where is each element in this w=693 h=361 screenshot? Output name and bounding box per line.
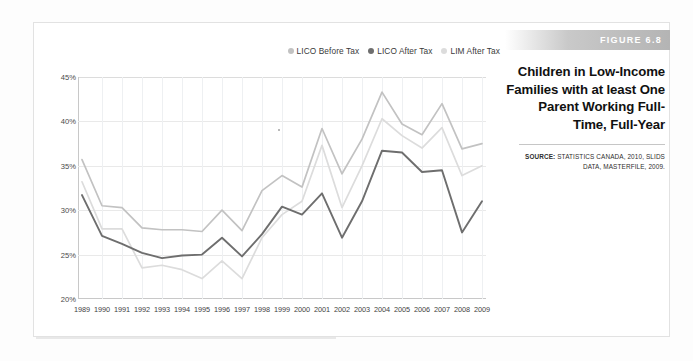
x-axis-tick-label: 2005 bbox=[394, 305, 410, 314]
legend-swatch-icon bbox=[288, 48, 294, 54]
x-axis-tick-label: 1993 bbox=[154, 305, 170, 314]
legend-label: LIM After Tax bbox=[450, 46, 500, 56]
x-axis-tick-label: 1995 bbox=[194, 305, 210, 314]
x-axis-tick-label: 1990 bbox=[94, 305, 110, 314]
y-axis-tick-label: 45% bbox=[42, 73, 76, 82]
x-axis-tick-label: 2000 bbox=[294, 305, 310, 314]
legend-item-2[interactable]: LIM After Tax bbox=[441, 46, 500, 56]
x-axis-tick-label: 1999 bbox=[274, 305, 290, 314]
series-lines bbox=[78, 77, 486, 299]
x-axis-tick-label: 2008 bbox=[454, 305, 470, 314]
x-axis-tick-label: 2001 bbox=[314, 305, 330, 314]
x-axis-tick-label: 1994 bbox=[174, 305, 190, 314]
series-line-2 bbox=[82, 119, 482, 279]
x-axis-tick-label: 1996 bbox=[214, 305, 230, 314]
chart-legend: LICO Before TaxLICO After TaxLIM After T… bbox=[230, 46, 500, 56]
x-axis-tick-label: 1992 bbox=[134, 305, 150, 314]
x-axis-tick-label: 1997 bbox=[234, 305, 250, 314]
x-axis-tick-label: 1998 bbox=[254, 305, 270, 314]
y-axis-tick-label: 25% bbox=[42, 251, 76, 260]
chart-area: LICO Before TaxLICO After TaxLIM After T… bbox=[40, 30, 502, 330]
series-line-0 bbox=[82, 92, 482, 231]
figure-title: Children in Low-Income Families with at … bbox=[505, 63, 665, 133]
x-axis-tick-label: 2006 bbox=[414, 305, 430, 314]
x-axis-tick-label: 1989 bbox=[74, 305, 90, 314]
panel-divider bbox=[519, 144, 665, 145]
y-axis-tick-label: 40% bbox=[42, 117, 76, 126]
figure-number-label: FIGURE 6.8 bbox=[600, 35, 670, 45]
figure-side-panel: FIGURE 6.8 Children in Low-Income Famili… bbox=[505, 30, 665, 171]
y-axis-tick-label: 30% bbox=[42, 206, 76, 215]
plot-region: 20%25%30%35%40%45% 198919901991199219931… bbox=[78, 77, 486, 299]
legend-item-1[interactable]: LICO After Tax bbox=[368, 46, 432, 56]
x-axis-tick-label: 2007 bbox=[434, 305, 450, 314]
series-line-1 bbox=[82, 151, 482, 258]
y-axis-tick-label: 20% bbox=[42, 295, 76, 304]
x-axis-tick-label: 2004 bbox=[374, 305, 390, 314]
x-axis-tick-label: 2009 bbox=[474, 305, 490, 314]
x-axis-tick-label: 1991 bbox=[114, 305, 130, 314]
figure-source: SOURCE: STATISTICS CANADA, 2010, SLIDS D… bbox=[505, 152, 665, 171]
legend-item-0[interactable]: LICO Before Tax bbox=[288, 46, 360, 56]
legend-label: LICO Before Tax bbox=[297, 46, 360, 56]
source-text: STATISTICS CANADA, 2010, SLIDS DATA, MAS… bbox=[557, 153, 665, 169]
x-axis-tick-label: 2003 bbox=[354, 305, 370, 314]
figure-container: LICO Before TaxLICO After TaxLIM After T… bbox=[0, 0, 693, 361]
legend-label: LICO After Tax bbox=[377, 46, 432, 56]
source-label: SOURCE: bbox=[525, 153, 555, 160]
figure-tag-bar: FIGURE 6.8 bbox=[505, 30, 670, 50]
y-axis-tick-label: 35% bbox=[42, 162, 76, 171]
x-axis-tick-label: 2002 bbox=[334, 305, 350, 314]
legend-swatch-icon bbox=[368, 48, 374, 54]
frame-shadow bbox=[36, 337, 336, 339]
legend-swatch-icon bbox=[441, 48, 447, 54]
